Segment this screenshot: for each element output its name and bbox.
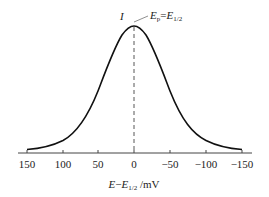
x-tick-labels: 150 100 50 0 −50 −100 −150 — [19, 158, 254, 170]
annotation-leader-line — [134, 16, 148, 22]
tick-label: 50 — [93, 158, 105, 170]
tick-label: −150 — [231, 158, 254, 170]
voltammogram-curve — [27, 26, 242, 150]
x-axis-label: E−E1/2 /mV — [108, 178, 160, 192]
tick-label: −50 — [161, 158, 179, 170]
tick-label: −100 — [195, 158, 218, 170]
tick-label: 100 — [55, 158, 72, 170]
peak-potential-label: Ep=E1/2 — [149, 9, 183, 23]
tick-label: 150 — [19, 158, 36, 170]
tick-label: 0 — [131, 158, 137, 170]
dpv-chart: 150 100 50 0 −50 −100 −150 E−E1/2 /mV I … — [0, 0, 269, 197]
peak-current-label: I — [119, 10, 125, 22]
